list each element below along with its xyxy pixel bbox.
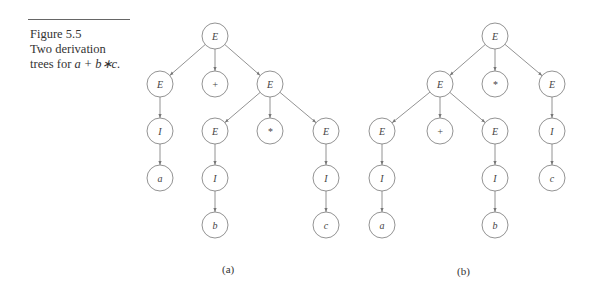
svg-text:+: + — [212, 79, 219, 90]
identifier-node: I — [482, 165, 508, 191]
tree-edge-arrow — [505, 44, 542, 75]
svg-text:I: I — [492, 173, 497, 184]
svg-text:a: a — [380, 220, 385, 231]
svg-text:c: c — [550, 173, 555, 184]
terminal-a-node: a — [147, 165, 173, 191]
svg-text:I: I — [157, 126, 162, 137]
expression-node: E — [257, 71, 283, 97]
svg-text:I: I — [323, 173, 328, 184]
svg-text:+: + — [437, 126, 444, 137]
svg-text:E: E — [211, 31, 218, 42]
expression-node: E — [313, 118, 339, 144]
svg-text:E: E — [491, 126, 498, 137]
svg-text:*: * — [268, 126, 273, 137]
subfigure-label-a: (a) — [222, 263, 234, 275]
terminal-b-node: b — [202, 212, 228, 238]
tree-edge-arrow — [280, 92, 316, 122]
subfigure-label-b: (b) — [457, 265, 470, 277]
identifier-node: I — [539, 118, 565, 144]
derivation-tree-b: EE*EE+EIIaIbc — [369, 23, 565, 238]
tree-edge-arrow — [225, 92, 260, 122]
svg-text:E: E — [378, 126, 385, 137]
times-operator-node: * — [482, 71, 508, 97]
tree-edge-arrow — [170, 45, 205, 76]
svg-text:b: b — [493, 220, 498, 231]
expression-node: E — [202, 23, 228, 49]
svg-text:c: c — [324, 220, 329, 231]
svg-text:I: I — [379, 173, 384, 184]
svg-text:a: a — [158, 173, 163, 184]
tree-edge-arrow — [450, 92, 485, 122]
terminal-a-node: a — [369, 212, 395, 238]
tree-edge-arrow — [225, 45, 260, 76]
svg-text:I: I — [212, 173, 217, 184]
identifier-node: I — [313, 165, 339, 191]
svg-text:E: E — [491, 31, 498, 42]
terminal-c-node: c — [539, 165, 565, 191]
svg-text:E: E — [266, 79, 273, 90]
svg-text:I: I — [549, 126, 554, 137]
plus-operator-node: + — [427, 118, 453, 144]
derivation-tree-a: EE+EIaE*EIbIc — [147, 23, 339, 238]
times-operator-node: * — [257, 118, 283, 144]
derivation-trees-figure: EE+EIaE*EIbIc EE*EE+EIIaIbc — [0, 0, 591, 300]
tree-edge-arrow — [450, 45, 485, 76]
terminal-b-node: b — [482, 212, 508, 238]
identifier-node: I — [202, 165, 228, 191]
svg-text:b: b — [213, 220, 218, 231]
expression-node: E — [369, 118, 395, 144]
svg-text:E: E — [436, 79, 443, 90]
svg-text:E: E — [322, 126, 329, 137]
terminal-c-node: c — [313, 212, 339, 238]
expression-node: E — [147, 71, 173, 97]
expression-node: E — [202, 118, 228, 144]
svg-text:E: E — [156, 79, 163, 90]
tree-edge-arrow — [392, 92, 430, 123]
expression-node: E — [482, 23, 508, 49]
expression-node: E — [539, 71, 565, 97]
svg-text:E: E — [548, 79, 555, 90]
svg-text:*: * — [493, 79, 498, 90]
identifier-node: I — [147, 118, 173, 144]
svg-text:E: E — [211, 126, 218, 137]
expression-node: E — [427, 71, 453, 97]
expression-node: E — [482, 118, 508, 144]
identifier-node: I — [369, 165, 395, 191]
plus-operator-node: + — [202, 71, 228, 97]
